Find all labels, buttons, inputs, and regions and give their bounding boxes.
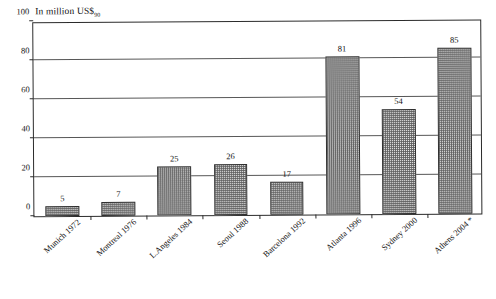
bar[interactable] <box>214 164 248 215</box>
plot-area: 100806040200 57252617815485 <box>32 20 482 218</box>
bar-value-label: 81 <box>338 43 347 53</box>
y-axis-tick-label: 40 <box>21 123 30 133</box>
bar-value-label: 5 <box>60 193 64 203</box>
bar-slot: 54 <box>381 21 416 214</box>
y-axis-tick-label: 80 <box>21 45 30 55</box>
bar-slot: 85 <box>437 21 472 214</box>
bar-value-label: 25 <box>170 154 179 164</box>
y-axis-tick-label: 100 <box>16 6 29 16</box>
bar-slot: 17 <box>269 22 304 215</box>
y-axis-unit-caption: In million US$90 <box>35 6 100 18</box>
bar-value-label: 7 <box>116 189 120 199</box>
bar[interactable] <box>437 48 472 214</box>
x-axis-category-label: Atlanta 1996 <box>323 215 362 252</box>
x-axis-category-label: L.Angeles 1984 <box>148 216 195 260</box>
bar-slot: 25 <box>157 22 192 215</box>
bar-slot: 5 <box>44 23 79 216</box>
y-axis-tick-label: 20 <box>22 162 31 172</box>
x-axis-category-label: Seoul 1988 <box>215 216 250 249</box>
bar-slot: 81 <box>325 21 360 214</box>
bar-slot: 26 <box>213 22 248 215</box>
x-axis-category-label: Barcelona 1992 <box>260 216 306 259</box>
y-axis-unit-subscript: 90 <box>94 12 100 18</box>
bar-slot: 7 <box>101 23 136 216</box>
x-axis-category-label: Athens 2004 * <box>432 215 475 256</box>
bars-group: 57252617815485 <box>33 21 481 217</box>
x-axis-category-label: Montreal 1976 <box>94 217 138 258</box>
bar[interactable] <box>325 56 360 214</box>
bar[interactable] <box>158 167 192 216</box>
bar[interactable] <box>270 182 304 215</box>
bar[interactable] <box>102 202 136 216</box>
bar-value-label: 54 <box>394 96 403 106</box>
y-axis-tick-mark <box>29 20 33 21</box>
y-axis-unit-text: In million US$ <box>35 6 94 16</box>
y-axis-tick-label: 60 <box>21 84 30 94</box>
bar[interactable] <box>382 109 416 215</box>
x-axis-category-label: Sydney 2000 <box>379 215 419 252</box>
x-axis-category-label: Munich 1972 <box>42 217 82 255</box>
bar-chart: In million US$90 100806040200 5725261781… <box>0 0 496 299</box>
bar-value-label: 17 <box>282 169 291 179</box>
y-axis-tick-label: 0 <box>26 201 30 211</box>
x-axis-labels-group: Munich 1972Montreal 1976L.Angeles 1984Se… <box>33 215 482 299</box>
bar-value-label: 26 <box>226 151 235 161</box>
bar[interactable] <box>46 206 80 216</box>
bar-value-label: 85 <box>450 35 459 45</box>
